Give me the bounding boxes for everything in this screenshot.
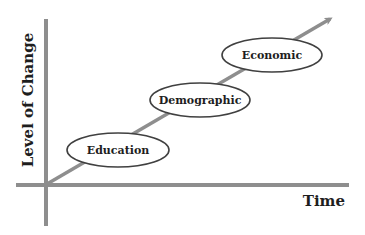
stage-demographic: Demographic	[150, 83, 250, 117]
x-axis-title: Time	[303, 192, 345, 210]
diagram-canvas: Education Demographic Economic Level of …	[0, 0, 365, 235]
y-axis-title: Level of Change	[19, 33, 37, 167]
stage-label: Demographic	[159, 94, 242, 107]
stage-label: Economic	[242, 49, 303, 62]
stage-economic: Economic	[222, 38, 322, 72]
stage-education: Education	[67, 133, 169, 167]
stage-label: Education	[87, 144, 150, 157]
